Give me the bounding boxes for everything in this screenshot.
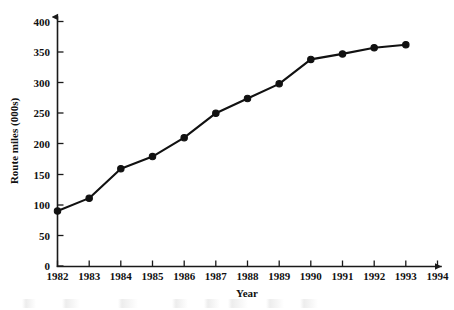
data-point bbox=[181, 134, 187, 140]
y-tick-label: 400 bbox=[34, 16, 51, 28]
x-tick-label: 1983 bbox=[78, 270, 101, 282]
data-point bbox=[308, 56, 314, 62]
y-tick-label: 150 bbox=[34, 169, 51, 181]
y-tick-label: 250 bbox=[34, 107, 51, 119]
x-tick-label: 1994 bbox=[427, 270, 450, 282]
data-point bbox=[276, 81, 282, 87]
y-axis-title: Route miles (000s) bbox=[8, 98, 21, 184]
x-tick-label: 1993 bbox=[395, 270, 418, 282]
x-axis-ticks bbox=[58, 261, 438, 267]
series-markers bbox=[54, 42, 409, 215]
y-tick-label: 50 bbox=[39, 230, 51, 242]
x-tick-label: 1986 bbox=[173, 270, 196, 282]
y-axis: 0 50 100 150 200 250 300 350 400 Route m… bbox=[8, 16, 64, 273]
x-tick-label: 1991 bbox=[332, 270, 354, 282]
page-caption-remnant bbox=[22, 299, 322, 308]
x-tick-label: 1989 bbox=[268, 270, 291, 282]
x-tick-label: 1984 bbox=[110, 270, 133, 282]
line-chart-figure: 0 50 100 150 200 250 300 350 400 Route m… bbox=[0, 0, 454, 310]
x-tick-label: 1990 bbox=[300, 270, 323, 282]
data-point bbox=[244, 95, 250, 101]
y-axis-tick-labels: 0 50 100 150 200 250 300 350 400 bbox=[34, 16, 51, 273]
y-tick-label: 100 bbox=[34, 199, 51, 211]
y-tick-label: 300 bbox=[34, 77, 51, 89]
data-point bbox=[149, 153, 155, 159]
x-tick-label: 1985 bbox=[142, 270, 165, 282]
x-tick-label: 1982 bbox=[47, 270, 70, 282]
y-tick-label: 200 bbox=[34, 138, 51, 150]
data-point bbox=[118, 166, 124, 172]
x-tick-label: 1992 bbox=[363, 270, 386, 282]
x-tick-label: 1988 bbox=[237, 270, 260, 282]
data-point bbox=[54, 208, 60, 214]
chart-plot-area: 0 50 100 150 200 250 300 350 400 Route m… bbox=[0, 0, 454, 310]
series-line-route-miles bbox=[58, 45, 406, 211]
x-axis-tick-labels: 1982 1983 1984 1985 1986 1987 1988 1989 … bbox=[47, 270, 450, 282]
x-tick-label: 1987 bbox=[205, 270, 228, 282]
y-axis-ticks bbox=[58, 22, 64, 267]
data-point bbox=[213, 110, 219, 116]
data-point bbox=[339, 51, 345, 57]
y-tick-label: 350 bbox=[34, 46, 51, 58]
x-axis: 1982 1983 1984 1985 1986 1987 1988 1989 … bbox=[47, 261, 450, 300]
data-point bbox=[86, 195, 92, 201]
data-point bbox=[371, 45, 377, 51]
data-point bbox=[403, 42, 409, 48]
x-axis-title: Year bbox=[236, 287, 258, 299]
data-series-route-miles bbox=[54, 42, 409, 215]
